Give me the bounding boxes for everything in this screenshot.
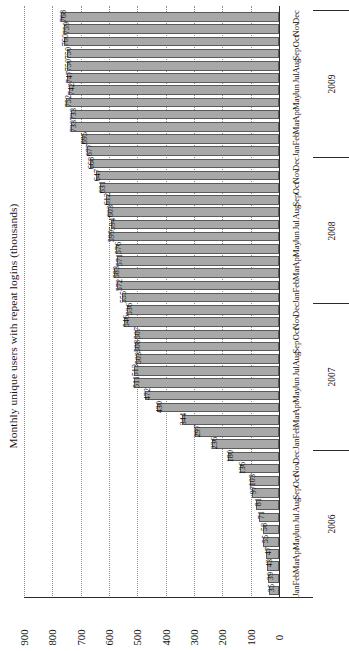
bar-row[interactable]: 677Jan bbox=[24, 145, 313, 157]
bar-row[interactable]: 750Aug bbox=[24, 60, 313, 72]
bar[interactable] bbox=[100, 183, 279, 193]
year-separator bbox=[313, 157, 349, 158]
bar-row[interactable]: 599Jun bbox=[24, 231, 313, 243]
bar[interactable] bbox=[114, 268, 279, 278]
bar-row[interactable]: 39Feb bbox=[24, 573, 313, 585]
bar[interactable] bbox=[134, 378, 279, 388]
category-axis-line bbox=[24, 597, 313, 598]
bar[interactable] bbox=[228, 452, 279, 462]
bar-value-label: 733 bbox=[69, 120, 78, 132]
category-label: Feb bbox=[281, 426, 311, 438]
bar-row[interactable]: 507Oct bbox=[24, 328, 313, 340]
bar-row[interactable]: 430Apr bbox=[24, 402, 313, 414]
bar-value-label: 103 bbox=[248, 474, 257, 486]
bar[interactable] bbox=[122, 293, 279, 303]
bar-value-label: 297 bbox=[193, 425, 202, 437]
bar[interactable] bbox=[67, 61, 280, 71]
bar[interactable] bbox=[64, 24, 279, 34]
bar-row[interactable]: 576May bbox=[24, 243, 313, 255]
bar[interactable] bbox=[124, 317, 279, 327]
bar-row[interactable]: 572Feb bbox=[24, 280, 313, 292]
bar-row[interactable]: 103Oct bbox=[24, 475, 313, 487]
bar-row[interactable]: 503Aug bbox=[24, 353, 313, 365]
bar[interactable] bbox=[116, 244, 279, 254]
bar[interactable] bbox=[195, 427, 279, 437]
bar-row[interactable]: 631Oct bbox=[24, 182, 313, 194]
bar[interactable] bbox=[182, 415, 279, 425]
bar-row[interactable]: 71Jul bbox=[24, 512, 313, 524]
bar[interactable] bbox=[109, 232, 279, 242]
bar-row[interactable]: 760Oct bbox=[24, 35, 313, 47]
category-label: Jun bbox=[281, 231, 311, 243]
bar-row[interactable]: 136Nov bbox=[24, 463, 313, 475]
bar[interactable] bbox=[212, 439, 279, 449]
bar-row[interactable]: 733Apr bbox=[24, 109, 313, 121]
category-label: Mar bbox=[281, 267, 311, 279]
bar[interactable] bbox=[90, 159, 279, 169]
bar[interactable] bbox=[71, 110, 279, 120]
bar-row[interactable]: 594Jul bbox=[24, 219, 313, 231]
bar[interactable] bbox=[145, 391, 279, 401]
bar[interactable] bbox=[117, 256, 279, 266]
bar[interactable] bbox=[69, 85, 279, 95]
year-group-2006: 2006 bbox=[315, 451, 349, 598]
bar[interactable] bbox=[87, 146, 279, 156]
bar-value-label: 576 bbox=[114, 242, 123, 254]
bar-row[interactable]: 236Jan bbox=[24, 438, 313, 450]
bar-row[interactable]: 546Nov bbox=[24, 316, 313, 328]
bar[interactable] bbox=[106, 195, 279, 205]
bar-row[interactable]: 344Mar bbox=[24, 414, 313, 426]
bar-row[interactable]: 511Jun bbox=[24, 377, 313, 389]
bar[interactable] bbox=[111, 220, 279, 230]
bar-row[interactable]: 583Mar bbox=[24, 267, 313, 279]
bar[interactable] bbox=[127, 305, 279, 315]
bar-row[interactable]: 555Jan bbox=[24, 292, 313, 304]
bar[interactable] bbox=[66, 98, 279, 108]
bar-row[interactable]: 750Sep bbox=[24, 48, 313, 60]
bar[interactable] bbox=[82, 134, 279, 144]
bar-row[interactable]: 747Jul bbox=[24, 72, 313, 84]
bar-row[interactable]: 612Sep bbox=[24, 194, 313, 206]
bar[interactable] bbox=[96, 171, 279, 181]
bar-row[interactable]: 58Jun bbox=[24, 524, 313, 536]
bar-row[interactable]: 768Dec bbox=[24, 11, 313, 23]
bar[interactable] bbox=[61, 12, 279, 22]
bar-row[interactable]: 571Apr bbox=[24, 255, 313, 267]
bar[interactable] bbox=[157, 403, 279, 413]
bar[interactable] bbox=[71, 122, 279, 132]
bar-row[interactable]: 43Mar bbox=[24, 560, 313, 572]
bar[interactable] bbox=[108, 207, 279, 217]
bar[interactable] bbox=[134, 366, 279, 376]
bar-row[interactable]: 297Feb bbox=[24, 426, 313, 438]
bar[interactable] bbox=[117, 281, 279, 291]
bar[interactable] bbox=[67, 49, 280, 59]
category-label: Apr bbox=[281, 255, 311, 267]
bar-row[interactable]: 668Dec bbox=[24, 158, 313, 170]
bar-row[interactable]: 752May bbox=[24, 96, 313, 108]
bar-row[interactable]: 508Sep bbox=[24, 341, 313, 353]
bar-row[interactable]: 35Jan bbox=[24, 585, 313, 597]
bar-row[interactable]: 47Apr bbox=[24, 548, 313, 560]
bar[interactable] bbox=[135, 342, 279, 352]
bar[interactable] bbox=[64, 37, 279, 47]
bar[interactable] bbox=[135, 330, 279, 340]
bar-row[interactable]: 695Feb bbox=[24, 133, 313, 145]
bar-value-label: 572 bbox=[115, 279, 124, 291]
category-label: Jan bbox=[281, 145, 311, 157]
bar[interactable] bbox=[67, 73, 279, 83]
bar-row[interactable]: 759Nov bbox=[24, 23, 313, 35]
bar-row[interactable]: 647Nov bbox=[24, 170, 313, 182]
bar-value-label: 472 bbox=[143, 388, 152, 400]
bar-row[interactable]: 81Aug bbox=[24, 499, 313, 511]
bar-row[interactable]: 55May bbox=[24, 536, 313, 548]
bar-row[interactable]: 742Jun bbox=[24, 84, 313, 96]
bar-row[interactable]: 733Mar bbox=[24, 121, 313, 133]
bar-row[interactable]: 603Aug bbox=[24, 206, 313, 218]
bar-row[interactable]: 513Jul bbox=[24, 365, 313, 377]
bar-row[interactable]: 472May bbox=[24, 389, 313, 401]
year-group-2007: 2007 bbox=[315, 304, 349, 451]
bar-row[interactable]: 180Dec bbox=[24, 451, 313, 463]
bar-row[interactable]: 536Dec bbox=[24, 304, 313, 316]
bar-row[interactable]: 97Sep bbox=[24, 487, 313, 499]
bar[interactable] bbox=[136, 354, 279, 364]
